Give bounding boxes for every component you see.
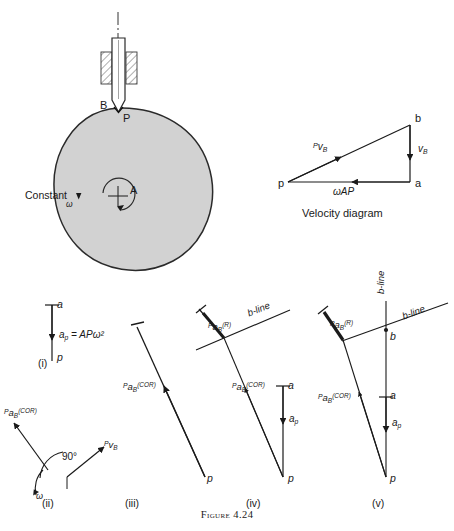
v-label-cor: PaB(COR) (318, 393, 351, 404)
vd-node-p: p (278, 178, 284, 189)
vd-label-v-b: vB (418, 144, 428, 156)
guide-block-left (101, 52, 112, 84)
iv-node-a: a (288, 380, 294, 391)
cam-mechanism-group (54, 12, 213, 270)
ii-label-cor: PaB(COR) (4, 408, 37, 419)
tag-iii: (iii) (125, 498, 139, 509)
iv-cor-sup: (COR) (246, 381, 265, 388)
i-node-p: p (57, 352, 63, 363)
label-point-b: B (100, 100, 107, 111)
label-point-p: P (123, 113, 130, 124)
v-node-a: a (390, 390, 396, 401)
iv-label-ap: ap (289, 414, 298, 426)
vd-node-a: a (415, 178, 421, 189)
tag-ii: (ii) (42, 498, 54, 509)
iii-label-cor: PaB(COR) (123, 382, 156, 393)
figure-4-24: B P A Constant ω p a b PvB vB ωAP Veloci… (0, 0, 454, 531)
iv-label-cor: PaB(COR) (232, 382, 265, 393)
iii-node-p: p (207, 473, 213, 484)
tip-tick-iii (131, 322, 144, 325)
vector-cor-iii-head (164, 386, 205, 477)
ii-label-pvb: PvB (104, 440, 118, 451)
v-ap-sub: p (398, 422, 402, 429)
vd-label-omega-ap: ωAP (333, 187, 354, 197)
omega-symbol-cam: ω (66, 200, 73, 209)
iii-label-r: PaB(R) (208, 322, 231, 333)
constant-word: Constant (25, 189, 67, 201)
vd-label-pv-b: PvB (313, 142, 327, 154)
vd-node-b: b (415, 113, 421, 124)
figure-caption: Figure 4.24 (0, 509, 454, 520)
iv-ap-sub: p (295, 418, 299, 425)
vector-cor-dir (14, 423, 48, 470)
vector-cor-v-head (359, 392, 386, 477)
ii-pvb-sub: B (113, 444, 117, 451)
v-label-r: PaB(R) (330, 320, 353, 331)
ii-cor-sup: (COR) (18, 407, 37, 414)
vd-v-b-sub: B (423, 148, 428, 155)
iv-node-p: p (288, 473, 294, 484)
i-node-a: a (57, 299, 63, 310)
v-label-bline-vertical: b-line (376, 271, 386, 294)
vector-pv-b-head (288, 157, 341, 182)
iii-cor-sup: (COR) (137, 381, 156, 388)
v-node-b: b (390, 331, 396, 342)
v-r-sup: (R) (344, 319, 353, 326)
ii-label-angle: 90° (62, 452, 77, 462)
diagram-iv-group (276, 386, 290, 477)
label-constant-omega: Constant (25, 190, 67, 201)
v-cor-sup: (COR) (332, 392, 351, 399)
diagram-iii-group (131, 322, 205, 477)
vector-cor-iv-head (245, 388, 283, 477)
point-b-dot-v (384, 328, 388, 332)
tag-iv: (iv) (246, 498, 261, 509)
velocity-diagram-title: Velocity diagram (302, 208, 383, 219)
angle-arc-90 (40, 452, 63, 478)
knife-edge-follower (112, 38, 125, 112)
diagram-ii-group (14, 423, 104, 496)
v-label-ap: ap (392, 418, 401, 430)
tag-v: (v) (372, 498, 384, 509)
tag-i: (i) (38, 358, 47, 369)
i-ap-eq: = APω² (68, 329, 103, 340)
i-label-ap-eq: ap = APω² (59, 330, 104, 342)
velocity-diagram-group (288, 125, 410, 182)
guide-block-right (126, 52, 137, 84)
vd-pv-b-sub: B (323, 146, 328, 153)
iii-r-sup: (R) (222, 321, 231, 328)
label-point-a: A (130, 185, 137, 196)
v-node-p: p (390, 473, 396, 484)
